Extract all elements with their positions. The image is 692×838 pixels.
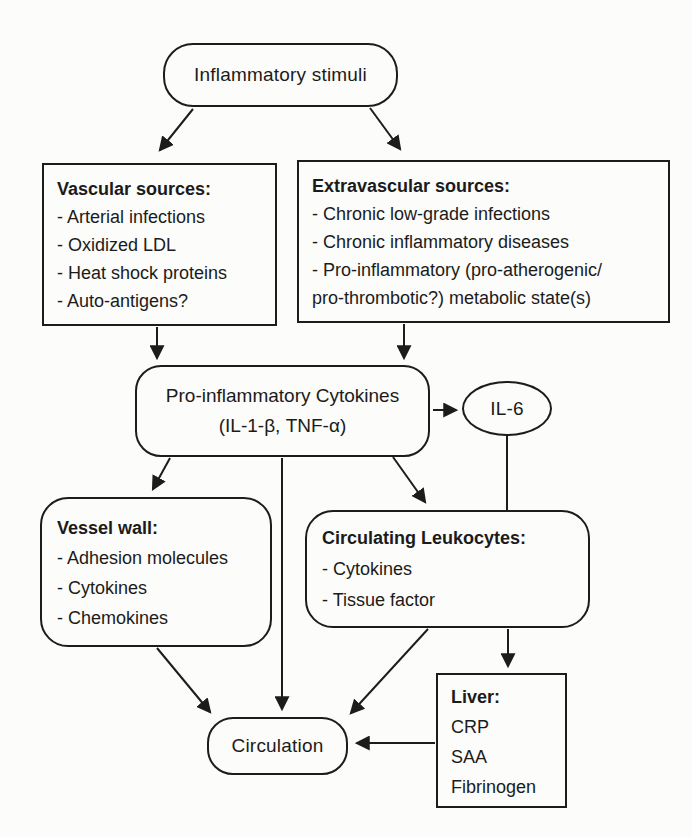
node-vessel-wall: Vessel wall: - Adhesion molecules - Cyto… — [40, 497, 272, 647]
edge-leukocytes-to-circulation — [351, 629, 428, 713]
edge-stimuli-to-vascular — [160, 109, 193, 150]
list-item: - Heat shock proteins — [57, 259, 262, 287]
node-pro-inflammatory-cytokines: Pro-inflammatory Cytokines (IL-1-β, TNF-… — [135, 365, 430, 457]
node-inflammatory-stimuli: Inflammatory stimuli — [163, 43, 398, 107]
edge-stimuli-to-extravascular — [370, 108, 400, 149]
node-title: Liver: — [451, 682, 552, 712]
edge-cytokines-to-vessel-wall — [153, 458, 170, 489]
node-liver: Liver: CRP SAA Fibrinogen — [436, 673, 567, 808]
list-item: SAA — [451, 742, 552, 772]
node-vascular-sources: Vascular sources: - Arterial infections … — [42, 163, 277, 326]
list-item: - Adhesion molecules — [57, 543, 255, 573]
list-item: - Arterial infections — [57, 203, 262, 231]
node-title: Vascular sources: — [57, 175, 262, 203]
edge-vessel-wall-to-circulation — [157, 648, 210, 712]
node-title: Vessel wall: — [57, 513, 255, 543]
node-title: Circulating Leukocytes: — [322, 523, 573, 554]
list-item: CRP — [451, 712, 552, 742]
node-label: IL-6 — [490, 398, 524, 420]
list-item: Fibrinogen — [451, 772, 552, 802]
node-label-line1: Pro-inflammatory Cytokines — [166, 381, 399, 411]
list-item: - Chemokines — [57, 603, 255, 633]
diagram-canvas: Inflammatory stimuli Vascular sources: -… — [0, 0, 692, 838]
node-label: Circulation — [232, 735, 324, 757]
list-item: - Cytokines — [322, 554, 573, 585]
node-circulation: Circulation — [207, 717, 348, 775]
list-item: - Tissue factor — [322, 585, 573, 616]
node-label-line2: (IL-1-β, TNF-α) — [219, 411, 346, 441]
node-title: Extravascular sources: — [312, 172, 655, 200]
list-item: - Chronic low-grade infections — [312, 200, 655, 228]
list-item: - Pro-inflammatory (pro-atherogenic/ pro… — [312, 256, 655, 312]
list-item: - Auto-antigens? — [57, 287, 262, 315]
list-item: - Chronic inflammatory diseases — [312, 228, 655, 256]
node-il6: IL-6 — [462, 381, 552, 436]
list-item: - Cytokines — [57, 573, 255, 603]
node-extravascular-sources: Extravascular sources: - Chronic low-gra… — [297, 160, 670, 323]
list-item: - Oxidized LDL — [57, 231, 262, 259]
node-circulating-leukocytes: Circulating Leukocytes: - Cytokines - Ti… — [305, 510, 590, 628]
node-label: Inflammatory stimuli — [194, 64, 367, 86]
edge-cytokines-to-leukocytes — [393, 457, 425, 502]
